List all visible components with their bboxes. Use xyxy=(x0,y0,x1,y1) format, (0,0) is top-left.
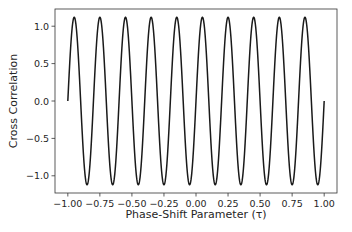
chart: −1.00−0.75−0.50−0.250.000.250.500.751.00… xyxy=(0,0,352,232)
x-tick-label: 0.75 xyxy=(282,198,303,209)
x-tick-label: −0.75 xyxy=(85,198,114,209)
y-tick-label: 1.0 xyxy=(34,21,49,32)
x-axis-label: Phase-Shift Parameter (τ) xyxy=(125,208,266,221)
y-tick-label: −1.0 xyxy=(26,170,49,181)
y-tick-label: 0.0 xyxy=(34,96,49,107)
y-tick-label: 0.5 xyxy=(34,58,49,69)
x-tick-label: −1.00 xyxy=(53,198,82,209)
x-tick-label: 1.00 xyxy=(314,198,335,209)
y-axis-label: Cross Correlation xyxy=(7,54,20,148)
y-tick-label: −0.5 xyxy=(26,133,49,144)
